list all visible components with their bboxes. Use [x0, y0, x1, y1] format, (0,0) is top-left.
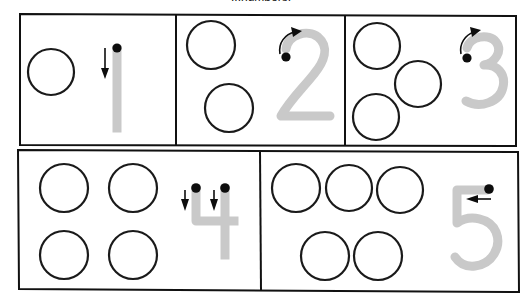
cell-5-circle-group [272, 164, 423, 280]
numeral-3-stroke [466, 37, 504, 105]
circle-token [28, 49, 74, 95]
start-dot [220, 183, 230, 193]
circle-token [109, 231, 157, 279]
circle-token [187, 21, 235, 69]
cell-4-circle-group [40, 164, 157, 279]
cell-2[interactable] [187, 21, 330, 132]
grid-frame [18, 14, 519, 292]
circle-token [377, 167, 423, 213]
circle-token [395, 61, 441, 107]
cell-1-circle-group [28, 49, 74, 95]
arrow-down-right [210, 190, 218, 211]
cell-3-numeral-3 [466, 37, 504, 105]
bottom-row-border [18, 150, 519, 292]
circle-token [205, 84, 253, 132]
worksheet-canvas [0, 0, 522, 304]
cell-2-numeral-2 [281, 33, 330, 116]
circle-token [301, 232, 349, 280]
start-dot [191, 183, 201, 193]
cell-5[interactable] [272, 164, 498, 280]
circle-token [272, 164, 320, 212]
numeral-2-stroke [281, 33, 330, 116]
cell-2-circle-group [187, 21, 253, 132]
circle-token [326, 165, 372, 211]
arrow-down-left [181, 190, 189, 211]
start-dot [281, 52, 290, 61]
start-dot [112, 43, 121, 52]
start-dot [462, 53, 471, 62]
bottom-divider-1 [260, 151, 261, 291]
cell-1[interactable] [28, 43, 122, 128]
circle-token [353, 94, 399, 140]
circle-token [354, 232, 402, 280]
circle-token [40, 231, 88, 279]
circle-token [40, 164, 88, 212]
arrow-left [466, 195, 491, 203]
cell-4[interactable] [40, 164, 234, 279]
arrow-down [101, 48, 109, 79]
number-tracing-worksheet: ...numbers. [0, 0, 522, 304]
start-dot [484, 184, 494, 194]
cell-3[interactable] [353, 23, 504, 140]
circle-token [109, 164, 157, 212]
circle-token [354, 23, 400, 69]
cell-3-circle-group [353, 23, 441, 140]
